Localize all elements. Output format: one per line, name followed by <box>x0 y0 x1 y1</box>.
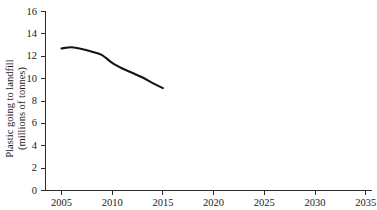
x-tick-marks <box>62 191 366 196</box>
y-axis-title: Plastic going to landfill (millions of t… <box>4 23 27 195</box>
chart-container: 0 2 4 6 8 10 12 14 16 2005 2010 2015 202… <box>0 0 377 210</box>
x-tick-label: 2020 <box>203 198 224 209</box>
x-tick-label: 2030 <box>305 198 326 209</box>
x-tick-label: 2015 <box>152 198 173 209</box>
x-tick-label: 2005 <box>51 198 72 209</box>
series-line-plastic-to-landfill <box>62 47 163 88</box>
y-axis-title-line1: Plastic going to landfill <box>4 59 15 157</box>
line-chart-plot <box>0 0 377 210</box>
x-tick-label: 2025 <box>254 198 275 209</box>
y-tick-marks <box>41 12 46 191</box>
y-tick-label: 16 <box>20 6 37 17</box>
y-axis-title-line2: (millions of tonnes) <box>15 23 27 195</box>
x-tick-label: 2035 <box>355 198 376 209</box>
x-tick-label: 2010 <box>102 198 123 209</box>
